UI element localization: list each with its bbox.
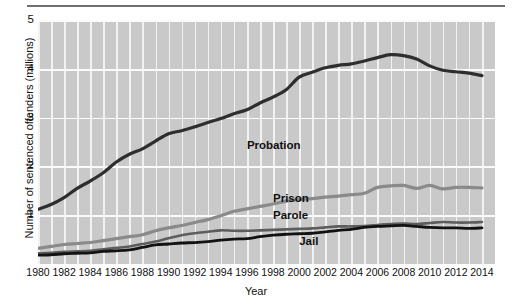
- series-label-jail: Jail: [299, 235, 318, 247]
- series-label-probation: Probation: [247, 139, 301, 151]
- y-axis-title: Number of sentenced offenders (millions): [23, 13, 35, 263]
- x-axis-ticks: 1980198219841986198819901992199419961998…: [0, 266, 512, 282]
- series-line-prison: [38, 185, 482, 248]
- plot-area: ProbationPrisonParoleJail: [38, 20, 495, 264]
- series-line-probation: [38, 55, 482, 210]
- chart-figure: 54321 Number of sentenced offenders (mil…: [0, 0, 512, 308]
- series-label-parole: Parole: [273, 209, 308, 221]
- x-tick-label: 2014: [462, 266, 502, 278]
- top-divider-rule: [27, 5, 505, 7]
- series-label-prison: Prison: [273, 192, 309, 204]
- x-axis-title: Year: [0, 285, 512, 297]
